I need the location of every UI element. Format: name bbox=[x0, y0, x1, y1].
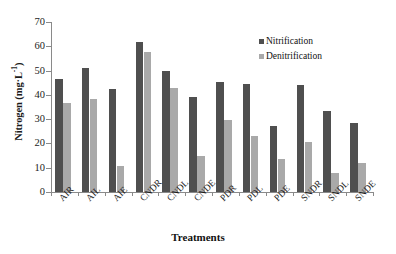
y-axis-title: Nitrogen (mg·L-1) bbox=[10, 27, 24, 177]
x-axis-tick-mark bbox=[373, 192, 374, 196]
legend-label: Nitrification bbox=[266, 34, 313, 49]
y-axis-tick-mark bbox=[46, 143, 51, 144]
y-axis-title-tail: ) bbox=[13, 63, 24, 66]
y-axis-tick-mark bbox=[46, 119, 51, 120]
x-axis-tick-mark bbox=[78, 192, 79, 196]
x-axis-title: Treatments bbox=[0, 231, 396, 243]
bar-denitrification bbox=[63, 103, 71, 192]
legend-label: Denitrification bbox=[266, 49, 322, 64]
x-axis-tick-mark bbox=[185, 192, 186, 196]
x-axis-tick-mark bbox=[158, 192, 159, 196]
legend-item-nitrification: Nitrification bbox=[259, 34, 322, 49]
bar-group bbox=[51, 22, 78, 192]
x-axis-tick-mark bbox=[51, 192, 52, 196]
x-axis-tick-mark bbox=[346, 192, 347, 196]
y-axis-tick-mark bbox=[46, 95, 51, 96]
x-axis-tick-mark bbox=[132, 192, 133, 196]
y-axis-tick-label: 0 bbox=[5, 187, 45, 197]
legend-swatch-icon bbox=[259, 39, 264, 44]
legend-swatch-icon bbox=[259, 54, 264, 59]
y-axis-tick-mark bbox=[46, 192, 51, 193]
y-axis-tick-mark bbox=[46, 71, 51, 72]
chart-legend: NitrificationDenitrification bbox=[259, 34, 322, 64]
y-axis-tick-mark bbox=[46, 46, 51, 47]
y-axis-tick-label: 70 bbox=[5, 17, 45, 27]
x-axis-tick-mark bbox=[266, 192, 267, 196]
plot-area bbox=[51, 22, 373, 192]
y-axis-title-main: Nitrogen (mg·L bbox=[13, 72, 24, 141]
bar-denitrification bbox=[90, 99, 98, 193]
x-axis-tick-mark bbox=[212, 192, 213, 196]
y-axis-tick-mark bbox=[46, 168, 51, 169]
y-axis-tick-mark bbox=[46, 22, 51, 23]
x-axis-tick-mark bbox=[105, 192, 106, 196]
x-axis-tick-mark bbox=[293, 192, 294, 196]
bar-nitrification bbox=[55, 79, 63, 192]
chart-figure: 010203040506070 Nitrogen (mg·L-1) AIRAIL… bbox=[0, 0, 396, 254]
y-axis-title-exponent: -1 bbox=[10, 66, 19, 72]
x-axis-tick-mark bbox=[319, 192, 320, 196]
bar-denitrification bbox=[224, 120, 232, 192]
x-axis-tick-mark bbox=[239, 192, 240, 196]
legend-item-denitrification: Denitrification bbox=[259, 49, 322, 64]
